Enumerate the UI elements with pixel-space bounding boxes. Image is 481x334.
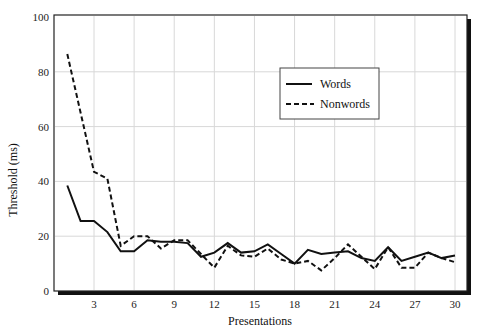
x-axis-ticks: 36912151821242730 (91, 298, 461, 310)
x-tick-label: 30 (450, 298, 462, 310)
line-chart: 020406080100 36912151821242730 Words Non… (0, 0, 481, 334)
x-tick-label: 18 (289, 298, 301, 310)
legend: Words Nonwords (280, 68, 379, 119)
legend-box (280, 68, 379, 119)
x-tick-label: 9 (171, 298, 177, 310)
x-tick-label: 3 (91, 298, 97, 310)
y-tick-label: 100 (33, 11, 50, 23)
x-tick-label: 15 (249, 298, 261, 310)
y-tick-label: 60 (38, 121, 50, 133)
y-tick-label: 40 (38, 175, 50, 187)
y-tick-label: 80 (38, 66, 50, 78)
y-axis-ticks: 020406080100 (33, 11, 50, 297)
legend-nonwords-label: Nonwords (320, 97, 370, 111)
legend-words-label: Words (320, 77, 351, 91)
x-tick-label: 12 (209, 298, 220, 310)
y-tick-label: 0 (44, 285, 50, 297)
x-axis-label: Presentations (228, 314, 292, 328)
x-tick-label: 27 (409, 298, 421, 310)
y-tick-label: 20 (38, 230, 50, 242)
y-axis-label: Threshold (ms) (6, 143, 20, 217)
plot-area (54, 15, 467, 291)
x-tick-label: 21 (329, 298, 340, 310)
x-tick-label: 6 (131, 298, 137, 310)
x-tick-label: 24 (369, 298, 381, 310)
